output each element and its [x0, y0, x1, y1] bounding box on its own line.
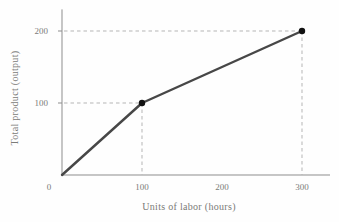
chart-canvas: 1002000100200300 [0, 0, 339, 222]
data-point-marker [139, 100, 145, 106]
x-tick-label: 0 [47, 182, 52, 192]
y-tick-label: 100 [35, 98, 49, 108]
x-tick-label: 200 [215, 182, 229, 192]
y-tick-label: 200 [35, 26, 49, 36]
x-tick-label: 100 [135, 182, 149, 192]
y-axis-title: Total product (output) [9, 51, 20, 146]
x-tick-label: 300 [295, 182, 309, 192]
x-axis-title: Units of labor (hours) [142, 201, 236, 212]
total-product-chart: 1002000100200300 Total product (output) … [0, 0, 339, 222]
data-point-marker [299, 28, 305, 34]
